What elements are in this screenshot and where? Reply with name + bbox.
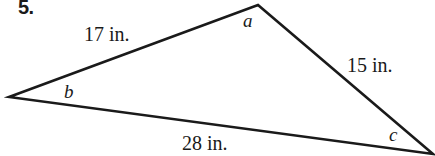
angle-label-b: b <box>64 82 74 101</box>
angle-label-a: a <box>243 11 253 30</box>
figure-canvas: 5. 17 in. 15 in. 28 in. a b c <box>0 0 435 156</box>
side-length-label-15: 15 in. <box>347 55 393 75</box>
problem-number: 5. <box>18 0 34 17</box>
angle-label-c: c <box>389 125 397 144</box>
side-length-label-17: 17 in. <box>84 24 130 44</box>
side-length-label-28: 28 in. <box>182 133 228 153</box>
